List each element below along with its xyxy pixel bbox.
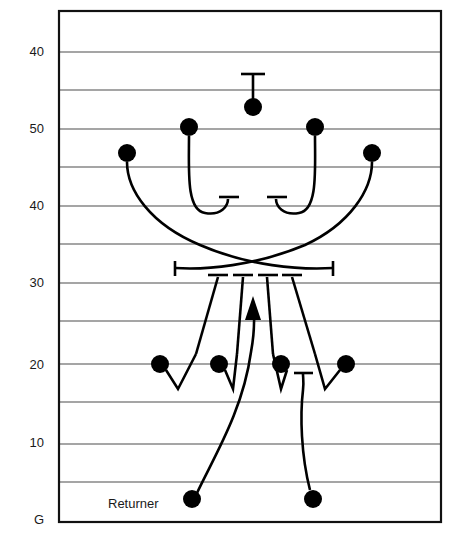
return-blocker-3 — [272, 355, 290, 373]
return-blocker-2 — [210, 355, 228, 373]
return-blocker-4 — [337, 355, 355, 373]
football-play-diagram: 405040302010G Returner — [0, 0, 461, 545]
field-canvas: 405040302010G Returner — [0, 0, 461, 545]
field-background — [0, 0, 461, 545]
yard-label: 20 — [30, 357, 44, 372]
kick-team-inside-left — [180, 118, 198, 136]
returner-label: Returner — [108, 496, 159, 511]
return-blocker-1 — [151, 355, 169, 373]
kick-team-outside-left — [118, 144, 136, 162]
returner-left — [183, 490, 201, 508]
yard-label: 30 — [30, 275, 44, 290]
yard-label: G — [34, 512, 44, 527]
yard-label: 10 — [30, 435, 44, 450]
annotations-group: Returner — [108, 496, 159, 511]
yard-label: 50 — [30, 121, 44, 136]
kicker — [244, 98, 262, 116]
returner-right — [304, 490, 322, 508]
yard-label: 40 — [30, 198, 44, 213]
kick-team-outside-right — [363, 144, 381, 162]
yard-label: 40 — [30, 44, 44, 59]
kick-team-inside-right — [306, 118, 324, 136]
